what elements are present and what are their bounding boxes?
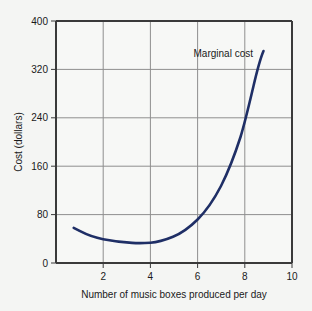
marginal-cost-line-chart: 0 80 160 240 320 400 2 4 6 8 10 Number o… xyxy=(0,0,312,311)
ytick-label-160: 160 xyxy=(31,161,48,172)
chart-figure: 0 80 160 240 320 400 2 4 6 8 10 Number o… xyxy=(0,0,312,311)
ytick-label-0: 0 xyxy=(42,258,48,269)
marginal-cost-annotation-label: Marginal cost xyxy=(194,48,254,59)
ytick-label-80: 80 xyxy=(37,209,49,220)
xtick-label-4: 4 xyxy=(148,271,154,282)
xtick-label-2: 2 xyxy=(100,271,106,282)
ytick-label-320: 320 xyxy=(31,64,48,75)
xtick-label-6: 6 xyxy=(195,271,201,282)
xtick-label-8: 8 xyxy=(242,271,248,282)
ytick-label-240: 240 xyxy=(31,112,48,123)
x-axis-title: Number of music boxes produced per day xyxy=(81,289,267,300)
ytick-label-400: 400 xyxy=(31,16,48,27)
y-axis-title: Cost (dollars) xyxy=(13,112,24,171)
xtick-label-10: 10 xyxy=(286,271,298,282)
plot-area-background xyxy=(56,21,292,263)
